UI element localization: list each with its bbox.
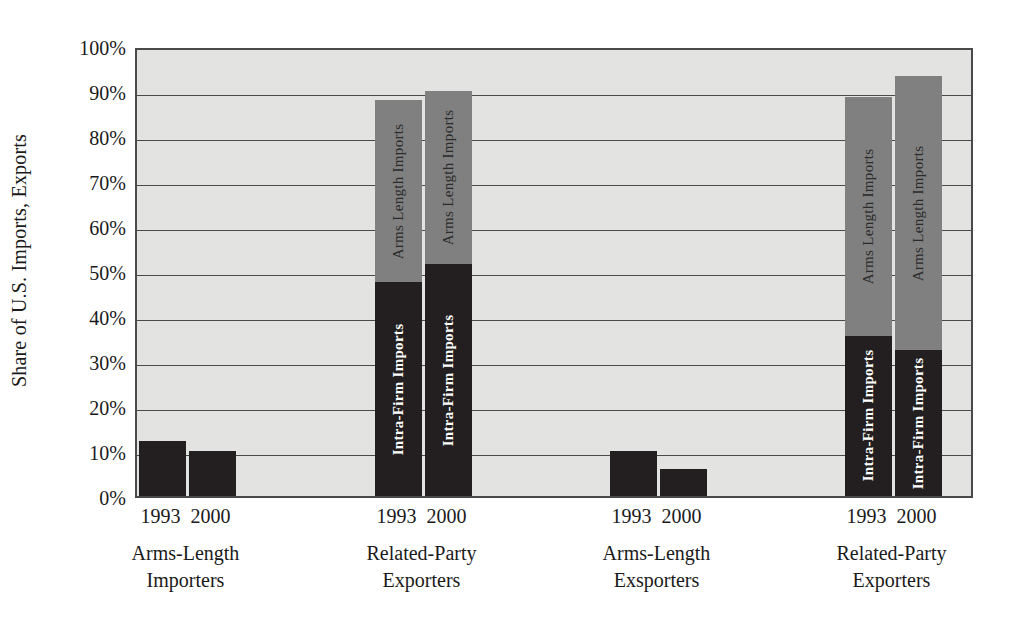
group-caption-line-1: Arms-Length: [558, 540, 755, 567]
y-axis-title-text: Share of U.S. Imports, Exports: [9, 133, 32, 386]
y-axis-tick-label: 80%: [42, 127, 126, 150]
x-axis-group-caption: Arms-LengthImporters: [87, 540, 284, 594]
group-caption-line-2: Exsporters: [558, 567, 755, 594]
x-axis-year-labels: 19932000199320001993200019932000: [135, 505, 973, 535]
y-axis-tick-label: 30%: [42, 352, 126, 375]
bar[interactable]: Arms Length ImportsIntra-Firm Imports: [425, 91, 472, 496]
y-axis-title: Share of U.S. Imports, Exports: [0, 0, 40, 520]
bar-segment-label: Arms Length Imports: [390, 123, 407, 259]
plot-area: Arms Length ImportsIntra-Firm ImportsArm…: [135, 48, 973, 498]
bar-segment-label: Arms Length Imports: [440, 110, 457, 246]
group-caption-line-1: Related-Party: [323, 540, 520, 567]
x-axis-year-label: 2000: [413, 505, 480, 528]
bar-segment[interactable]: Arms Length Imports: [895, 76, 942, 350]
bar-segment[interactable]: Arms Length Imports: [845, 97, 892, 336]
bar-segment-label: Intra-Firm Imports: [910, 357, 927, 489]
bar-segment[interactable]: Intra-Firm Imports: [895, 350, 942, 496]
group-caption-line-1: Related-Party: [793, 540, 990, 567]
bar-segment[interactable]: [610, 451, 657, 496]
y-axis-tick-label: 0%: [42, 487, 126, 510]
y-axis-tick-label: 20%: [42, 397, 126, 420]
bar-segment-label: Intra-Firm Imports: [390, 323, 407, 455]
group-caption-line-2: Exporters: [793, 567, 990, 594]
bar[interactable]: Arms Length ImportsIntra-Firm Imports: [845, 97, 892, 496]
bar[interactable]: [139, 441, 186, 496]
x-axis-group-caption: Related-PartyExporters: [793, 540, 990, 594]
y-axis-tick-label: 100%: [42, 37, 126, 60]
bar-segment-label: Intra-Firm Imports: [440, 314, 457, 446]
bar-series-container: Arms Length ImportsIntra-Firm ImportsArm…: [137, 50, 971, 496]
group-caption-line-2: Importers: [87, 567, 284, 594]
x-axis-year-label: 2000: [177, 505, 244, 528]
x-axis-group-captions: Arms-LengthImportersRelated-PartyExporte…: [135, 540, 973, 620]
x-axis-year-label: 2000: [648, 505, 715, 528]
y-axis-tick-label: 60%: [42, 217, 126, 240]
bar-segment[interactable]: Arms Length Imports: [425, 91, 472, 264]
bar-segment[interactable]: Intra-Firm Imports: [425, 264, 472, 496]
bar-segment[interactable]: [189, 451, 236, 496]
bar-segment[interactable]: Arms Length Imports: [375, 100, 422, 282]
x-axis-group-caption: Related-PartyExporters: [323, 540, 520, 594]
bar-segment[interactable]: [660, 469, 707, 496]
bar-segment-label: Arms Length Imports: [910, 145, 927, 281]
bar[interactable]: Arms Length ImportsIntra-Firm Imports: [375, 100, 422, 496]
group-caption-line-1: Arms-Length: [87, 540, 284, 567]
bar[interactable]: Arms Length ImportsIntra-Firm Imports: [895, 76, 942, 496]
bar[interactable]: [610, 451, 657, 496]
x-axis-group-caption: Arms-LengthExsporters: [558, 540, 755, 594]
bar-segment[interactable]: [139, 441, 186, 496]
group-caption-line-2: Exporters: [323, 567, 520, 594]
chart-figure: Share of U.S. Imports, Exports 0%10%20%3…: [0, 0, 1013, 622]
x-axis-year-label: 2000: [883, 505, 950, 528]
bar-segment[interactable]: Intra-Firm Imports: [845, 336, 892, 496]
y-axis-tick-label: 40%: [42, 307, 126, 330]
bar[interactable]: [660, 469, 707, 496]
y-axis-tick-label: 10%: [42, 442, 126, 465]
bar[interactable]: [189, 451, 236, 496]
y-axis-tick-labels: 0%10%20%30%40%50%60%70%80%90%100%: [42, 0, 132, 622]
bar-segment-label: Intra-Firm Imports: [860, 350, 877, 482]
y-axis-tick-label: 70%: [42, 172, 126, 195]
y-axis-tick-label: 90%: [42, 82, 126, 105]
y-axis-tick-label: 50%: [42, 262, 126, 285]
bar-segment[interactable]: Intra-Firm Imports: [375, 282, 422, 496]
bar-segment-label: Arms Length Imports: [860, 148, 877, 284]
